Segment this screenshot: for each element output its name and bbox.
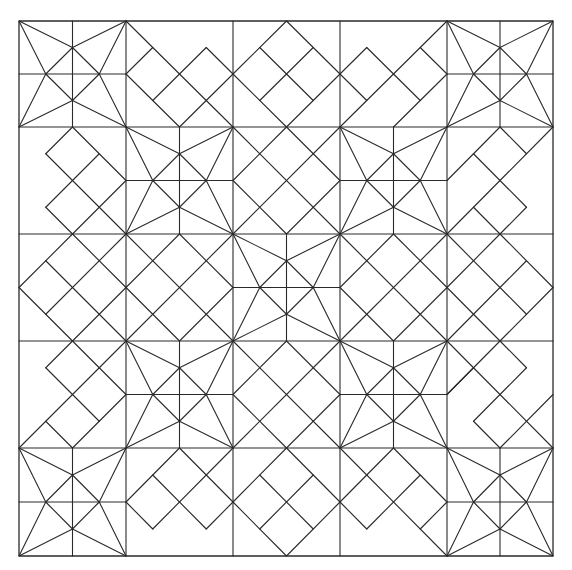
pattern-canvas — [0, 0, 572, 570]
